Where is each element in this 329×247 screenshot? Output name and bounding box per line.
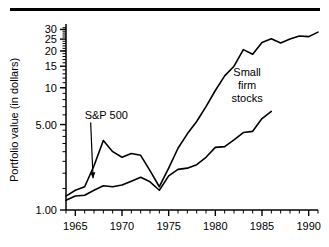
annotation-group: S&P 500Smallfirmstocks <box>85 66 263 178</box>
annotation-label-small-firm-stocks: stocks <box>231 92 263 104</box>
x-tick-label: 1965 <box>63 220 87 232</box>
figure-container: Portfolio value (in dollars) 1.005.00101… <box>0 0 329 247</box>
annotation-label-small-firm-stocks: Small <box>233 66 261 78</box>
annotation-label-small-firm-stocks: firm <box>238 79 256 91</box>
annotation-arrowhead-icon <box>90 172 95 178</box>
y-axis-title-text: Portfolio value (in dollars) <box>8 58 20 182</box>
x-tick-label: 1985 <box>250 220 274 232</box>
annotation-label-s-p-500: S&P 500 <box>85 109 128 121</box>
chart-canvas: Portfolio value (in dollars) 1.005.00101… <box>0 0 329 247</box>
x-tick-label: 1990 <box>296 220 320 232</box>
y-tick-label: 20 <box>45 45 57 57</box>
y-tick-label: 15 <box>45 60 57 72</box>
y-tick-label: 10 <box>45 82 57 94</box>
series-line-s-p-500 <box>66 111 271 200</box>
y-tick-group: 1.005.001015202530 <box>36 23 66 216</box>
y-tick-label: 30 <box>45 23 57 35</box>
x-tick-label: 1970 <box>110 220 134 232</box>
y-tick-label: 5.00 <box>36 119 57 131</box>
y-axis-title: Portfolio value (in dollars) <box>8 58 20 182</box>
x-tick-label: 1980 <box>203 220 227 232</box>
x-tick-group: 196519701975198019851990 <box>63 210 321 232</box>
x-tick-label: 1975 <box>156 220 180 232</box>
y-tick-label: 1.00 <box>36 204 57 216</box>
